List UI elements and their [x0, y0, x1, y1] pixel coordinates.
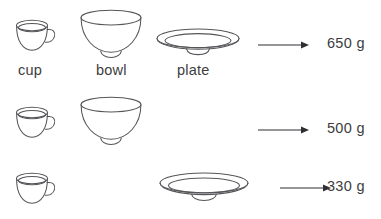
- item-label-plate: plate: [177, 63, 209, 78]
- item-label-bowl: bowl: [96, 63, 127, 78]
- row-weight-value: 330 g: [327, 179, 365, 194]
- cup-icon: [13, 104, 57, 142]
- row-weight-value: 650 g: [327, 36, 365, 51]
- plate-icon: [155, 27, 243, 59]
- plate-icon: [158, 171, 252, 205]
- bowl-icon: [78, 96, 148, 146]
- item-label-cup: cup: [18, 63, 42, 78]
- arrow-right-icon: [258, 37, 310, 49]
- arrow-right-icon: [280, 180, 332, 192]
- arrow-right-icon: [258, 122, 310, 134]
- row-weight-value: 500 g: [327, 121, 365, 136]
- illustration-canvas: cup bowl plate 650 g 50: [0, 0, 381, 219]
- cup-icon: [13, 17, 57, 55]
- cup-icon: [13, 170, 57, 208]
- bowl-icon: [78, 9, 148, 59]
